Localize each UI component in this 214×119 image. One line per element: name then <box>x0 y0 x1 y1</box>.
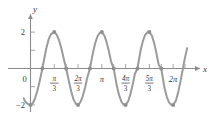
x-tick-label-fraction: 5π3 <box>145 75 153 93</box>
data-point-marker <box>171 103 175 107</box>
fraction-numerator: 2π <box>74 75 82 83</box>
fraction-denominator: 3 <box>52 85 56 93</box>
cosine-graph-svg: π32π3π4π35π32π2−20xy <box>0 0 214 119</box>
y-axis-label: y <box>32 4 37 14</box>
y-tick-label: −2 <box>16 100 25 110</box>
x-axis-label: x <box>202 64 207 74</box>
data-point-marker <box>40 67 44 71</box>
data-point-marker <box>112 67 116 71</box>
data-point-marker <box>147 30 151 34</box>
data-point-marker <box>76 103 80 107</box>
x-tick-label: π <box>100 74 105 84</box>
x-tick-label: 2π <box>169 74 178 84</box>
fraction-numerator: 4π <box>122 75 130 83</box>
data-point-marker <box>124 103 128 107</box>
graph-figure: π32π3π4π35π32π2−20xy <box>0 0 214 119</box>
y-axis-arrowhead <box>28 14 33 19</box>
x-tick-label-fraction: 4π3 <box>121 75 129 93</box>
fraction-denominator: 3 <box>76 85 80 93</box>
data-point-marker <box>52 30 56 34</box>
x-axis-arrowhead <box>195 66 200 71</box>
fraction-denominator: 3 <box>148 85 152 93</box>
x-tick-label-fraction: π3 <box>50 75 58 93</box>
x-tick-label-fraction: 2π3 <box>74 75 82 93</box>
y-tick-label: 2 <box>21 27 25 37</box>
data-point-marker <box>159 67 163 71</box>
data-point-marker <box>135 67 139 71</box>
origin-label: 0 <box>22 74 26 84</box>
fraction-denominator: 3 <box>124 85 128 93</box>
data-point-marker <box>29 103 33 107</box>
data-point-marker <box>100 30 104 34</box>
fraction-numerator: 5π <box>146 75 154 83</box>
fraction-numerator: π <box>52 75 56 83</box>
plot-group: π32π3π4π35π32π2−20xy <box>8 4 207 113</box>
data-point-marker <box>88 67 92 71</box>
data-point-marker <box>64 67 68 71</box>
